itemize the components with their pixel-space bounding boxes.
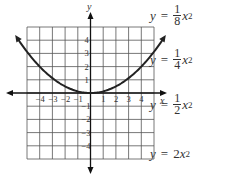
exponent: 2	[188, 55, 193, 65]
eq-lhs: y	[150, 97, 156, 113]
x-tick-label: 4	[139, 94, 144, 104]
fraction: 12	[173, 93, 181, 116]
denominator: 8	[173, 16, 181, 27]
x-tick-label: −4	[36, 94, 46, 104]
y-tick-label: 1	[85, 75, 89, 85]
y-tick-label: 2	[85, 62, 89, 72]
denominator: 4	[173, 60, 181, 71]
fraction: 18	[173, 4, 181, 27]
eq-lhs: y	[150, 8, 156, 24]
eq-sign: =	[161, 8, 168, 24]
denominator: 2	[173, 105, 181, 116]
exponent: 2	[188, 11, 193, 21]
y-tick-label: 3	[85, 48, 89, 58]
fraction: 14	[173, 48, 181, 71]
x-tick-label: −3	[48, 94, 57, 104]
x-tick-label: 2	[114, 94, 118, 104]
y-tick-label: −4	[82, 141, 92, 151]
exponent: 2	[185, 149, 190, 159]
y-axis-label: y	[86, 1, 92, 12]
x-tick-label: −2	[61, 94, 70, 104]
eq-lhs: y	[150, 146, 156, 162]
eq-lhs: y	[150, 52, 156, 68]
y-tick-label: −3	[82, 128, 91, 138]
x-tick-label: 1	[101, 94, 105, 104]
answer-choice-c: y = 12 x2	[150, 93, 192, 116]
answer-choice-a: y = 18 x2	[150, 4, 192, 27]
x-tick-label: 3	[127, 94, 131, 104]
y-axis-up-arrow-icon	[88, 12, 94, 19]
eq-sign: =	[161, 97, 168, 113]
exponent: 2	[188, 100, 193, 110]
y-tick-label: −2	[82, 114, 91, 124]
y-tick-label: −1	[82, 101, 91, 111]
graph-figure: −4−3−2−112344321−1−2−3−4 x y	[0, 0, 240, 180]
y-axis-down-arrow-icon	[88, 167, 94, 174]
eq-sign: =	[161, 146, 168, 162]
eq-sign: =	[161, 52, 168, 68]
answer-choice-d: y = 2x2	[150, 146, 190, 162]
answer-choice-b: y = 14 x2	[150, 48, 192, 71]
x-axis-left-arrow-icon	[6, 90, 13, 96]
